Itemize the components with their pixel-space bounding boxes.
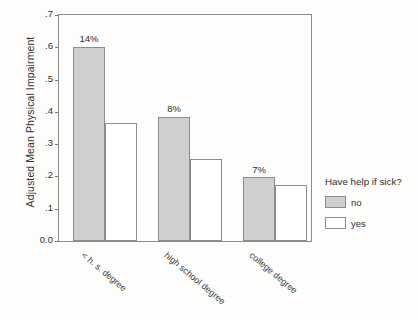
y-tick-label: .4 (45, 105, 53, 116)
y-tick-label: .2 (45, 169, 53, 180)
y-tick-label: .3 (45, 137, 53, 148)
y-tick-label: .7 (45, 8, 53, 19)
x-axis-label-1: high school degree (163, 250, 228, 307)
legend: Have help if sick? no yes (325, 176, 419, 238)
y-tick-mark (55, 241, 59, 242)
bar-chart-figure: Adjusted Mean Physical Impairment 0.0 .1… (0, 0, 419, 322)
bar-value-label-2: 7% (252, 164, 266, 175)
x-axis-label-0: < h. s. degree (80, 250, 129, 293)
y-tick-mark (55, 15, 59, 16)
y-tick-label: .1 (45, 202, 53, 213)
legend-label-yes: yes (351, 218, 366, 229)
legend-item-yes: yes (325, 217, 419, 229)
legend-item-no: no (325, 196, 419, 208)
bar-value-label-1: 8% (167, 103, 181, 114)
x-axis-label-2: college degree (248, 250, 300, 296)
bar-no-1 (158, 117, 190, 241)
legend-swatch-yes (325, 217, 346, 229)
bar-yes-0 (105, 123, 137, 241)
y-tick-label: .6 (45, 40, 53, 51)
legend-label-no: no (351, 197, 362, 208)
y-axis-title: Adjusted Mean Physical Impairment (24, 7, 36, 237)
y-tick-label: .5 (45, 73, 53, 84)
legend-title: Have help if sick? (325, 176, 419, 187)
bar-no-2 (243, 177, 275, 241)
y-tick-mark (55, 47, 59, 48)
bar-yes-2 (275, 185, 307, 241)
y-tick-mark (55, 144, 59, 145)
bar-yes-1 (190, 159, 222, 241)
y-tick-label: 0.0 (40, 234, 53, 245)
plot-area: 0.0 .1 .2 .3 .4 .5 .6 .7 (58, 14, 312, 242)
y-tick-mark (55, 80, 59, 81)
y-tick-mark (55, 209, 59, 210)
legend-swatch-no (325, 196, 346, 208)
bar-no-0 (73, 47, 105, 241)
y-tick-mark (55, 112, 59, 113)
y-tick-mark (55, 176, 59, 177)
bar-value-label-0: 14% (79, 33, 98, 44)
